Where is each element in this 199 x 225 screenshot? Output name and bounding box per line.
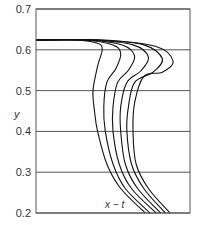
y-tick-label: 0.4 (16, 125, 31, 137)
y-tick-label: 0.5 (16, 85, 31, 97)
y-tick-label: 0.3 (16, 166, 31, 178)
curve-1 (36, 40, 145, 213)
curve-4 (36, 40, 161, 213)
y-tick-label: 0.7 (16, 3, 31, 15)
y-tick-label: 0.2 (16, 207, 31, 219)
y-axis-label: y (13, 108, 21, 120)
chart-canvas: 0.70.60.50.40.30.2 y x − t (0, 0, 199, 225)
curve-group (36, 40, 173, 213)
curve-5 (36, 40, 165, 213)
annotation-x-minus-t: x − t (104, 199, 125, 210)
y-tick-label: 0.6 (16, 44, 31, 56)
